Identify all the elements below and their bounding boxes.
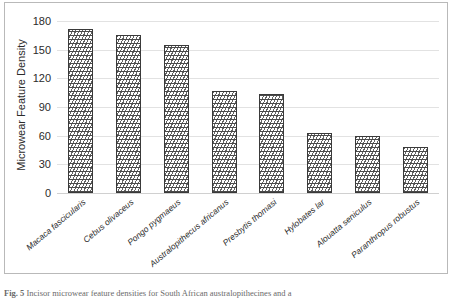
bar-pongo-pygmaeus [164,45,189,193]
bar-macaca-fascicularis [68,29,93,193]
caption-text: Incisor microwear feature densities for … [26,288,291,298]
y-tick-label-30: 30 [39,158,51,170]
y-tick-label-120: 120 [33,72,51,84]
figure-container: Microwear Feature Density 03060901201501… [0,0,452,306]
y-tick-label-180: 180 [33,15,51,27]
x-axis-label-macaca-fascicularis: Macaca fascicularis [24,197,87,252]
bar-slot [248,21,296,193]
bar-paranthropus-robustus [403,147,428,193]
bar-slot [391,21,439,193]
y-tick-label-150: 150 [33,44,51,56]
x-label-slot: Paranthropus robustus [391,195,439,273]
bar-hylobates-lar [307,133,332,193]
bar-slot [296,21,344,193]
y-tick-label-90: 90 [39,101,51,113]
bar-slot [57,21,105,193]
x-axis-labels: Macaca fascicularisCebus olivaceusPongo … [57,195,439,273]
gridline-0 [57,193,439,194]
bar-series [57,21,439,193]
bar-australopithecus-africanus [212,91,237,193]
caption-label: Fig. 5 [4,288,24,298]
figure-caption: Fig. 5 Incisor microwear feature densiti… [4,288,450,299]
plot-area: 0306090120150180 [57,21,439,193]
y-tick-label-0: 0 [45,187,51,199]
bar-slot [105,21,153,193]
bar-slot [344,21,392,193]
y-tick-label-60: 60 [39,130,51,142]
bar-presbytis-thomasi [259,94,284,193]
chart-frame: Microwear Feature Density 03060901201501… [4,2,448,274]
y-axis-title: Microwear Feature Density [15,15,27,195]
bar-slot [200,21,248,193]
bar-slot [153,21,201,193]
bar-cebus-olivaceus [116,35,141,193]
bar-alouatta-seniculus [355,136,380,193]
